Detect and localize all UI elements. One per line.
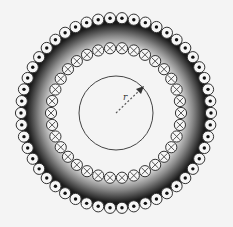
conductor-cross-icon bbox=[171, 84, 182, 95]
conductor-dot-icon bbox=[50, 181, 61, 192]
conductor-dot-icon bbox=[15, 107, 26, 118]
conductor-dot-icon bbox=[116, 202, 127, 213]
conductor-dot-icon bbox=[199, 72, 210, 83]
conductor-cross-icon bbox=[158, 151, 169, 162]
conductor-dot-icon bbox=[187, 163, 198, 174]
conductor-cross-icon bbox=[158, 64, 169, 75]
conductor-dot-icon bbox=[104, 202, 115, 213]
conductor-dot-icon bbox=[202, 131, 213, 142]
conductor-dot-icon bbox=[18, 84, 29, 95]
conductor-cross-icon bbox=[174, 119, 185, 130]
conductor-dot-icon bbox=[205, 119, 216, 130]
conductor-cross-icon bbox=[71, 159, 82, 170]
radius-label: r bbox=[123, 92, 128, 102]
conductor-dot-icon bbox=[194, 153, 205, 164]
conductor-dot-icon bbox=[16, 119, 27, 130]
conductor-dot-icon bbox=[104, 13, 115, 24]
conductor-dot-icon bbox=[34, 163, 45, 174]
conductor-cross-icon bbox=[104, 43, 115, 54]
conductor-dot-icon bbox=[171, 181, 182, 192]
conductor-cross-icon bbox=[50, 84, 61, 95]
conductor-dot-icon bbox=[22, 142, 33, 153]
conductor-cross-icon bbox=[166, 73, 177, 84]
toroid-cross-section-diagram: r bbox=[0, 0, 233, 227]
conductor-cross-icon bbox=[81, 49, 92, 60]
conductor-dot-icon bbox=[205, 107, 216, 118]
conductor-cross-icon bbox=[45, 107, 56, 118]
conductor-dot-icon bbox=[93, 201, 104, 212]
conductor-dot-icon bbox=[70, 21, 81, 32]
conductor-dot-icon bbox=[81, 17, 92, 28]
conductor-cross-icon bbox=[166, 142, 177, 153]
conductor-dot-icon bbox=[161, 27, 172, 38]
conductor-dot-icon bbox=[27, 62, 38, 73]
conductor-cross-icon bbox=[150, 159, 161, 170]
conductor-dot-icon bbox=[128, 14, 139, 25]
conductor-cross-icon bbox=[47, 95, 58, 106]
conductor-dot-icon bbox=[140, 198, 151, 209]
conductor-cross-icon bbox=[139, 166, 150, 177]
conductor-dot-icon bbox=[180, 42, 191, 53]
conductor-dot-icon bbox=[59, 188, 70, 199]
conductor-dot-icon bbox=[22, 72, 33, 83]
conductor-dot-icon bbox=[59, 27, 70, 38]
conductor-dot-icon bbox=[50, 34, 61, 45]
conductor-cross-icon bbox=[150, 56, 161, 67]
conductor-cross-icon bbox=[93, 45, 104, 56]
conductor-cross-icon bbox=[128, 45, 139, 56]
conductor-dot-icon bbox=[161, 188, 172, 199]
conductor-cross-icon bbox=[128, 170, 139, 181]
conductor-dot-icon bbox=[171, 34, 182, 45]
conductor-cross-icon bbox=[116, 43, 127, 54]
conductor-dot-icon bbox=[194, 62, 205, 73]
conductor-cross-icon bbox=[62, 64, 73, 75]
conductor-dot-icon bbox=[199, 142, 210, 153]
conductor-dot-icon bbox=[18, 131, 29, 142]
conductor-cross-icon bbox=[47, 119, 58, 130]
conductor-dot-icon bbox=[16, 95, 27, 106]
conductor-dot-icon bbox=[116, 13, 127, 24]
conductor-cross-icon bbox=[93, 170, 104, 181]
conductor-dot-icon bbox=[151, 193, 162, 204]
conductor-dot-icon bbox=[41, 42, 52, 53]
conductor-dot-icon bbox=[205, 95, 216, 106]
conductor-dot-icon bbox=[34, 52, 45, 63]
conductor-cross-icon bbox=[116, 172, 127, 183]
conductor-cross-icon bbox=[62, 151, 73, 162]
conductor-cross-icon bbox=[139, 49, 150, 60]
conductor-cross-icon bbox=[71, 56, 82, 67]
conductor-dot-icon bbox=[202, 84, 213, 95]
conductor-dot-icon bbox=[128, 201, 139, 212]
conductor-dot-icon bbox=[41, 172, 52, 183]
conductor-cross-icon bbox=[174, 95, 185, 106]
conductor-cross-icon bbox=[104, 172, 115, 183]
conductor-dot-icon bbox=[27, 153, 38, 164]
conductor-dot-icon bbox=[151, 21, 162, 32]
conductor-cross-icon bbox=[55, 142, 66, 153]
conductor-dot-icon bbox=[81, 198, 92, 209]
conductor-dot-icon bbox=[93, 14, 104, 25]
conductor-cross-icon bbox=[55, 73, 66, 84]
conductor-cross-icon bbox=[81, 166, 92, 177]
conductor-cross-icon bbox=[175, 107, 186, 118]
conductor-dot-icon bbox=[180, 172, 191, 183]
conductor-dot-icon bbox=[140, 17, 151, 28]
conductor-dot-icon bbox=[187, 52, 198, 63]
conductor-cross-icon bbox=[171, 131, 182, 142]
conductor-cross-icon bbox=[50, 131, 61, 142]
conductor-dot-icon bbox=[70, 193, 81, 204]
